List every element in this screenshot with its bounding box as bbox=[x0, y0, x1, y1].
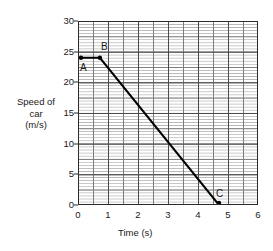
y-tick-label-10: 10 bbox=[52, 139, 74, 149]
y-tick-label-30: 30 bbox=[52, 16, 74, 26]
y-tick-mark bbox=[74, 51, 78, 52]
x-axis-title: Time (s) bbox=[118, 228, 218, 238]
y-tick-mark bbox=[74, 143, 78, 144]
y-axis-title-line-2: car bbox=[8, 108, 64, 120]
point-label-b: B bbox=[101, 42, 108, 52]
x-tick-label-0: 0 bbox=[68, 210, 88, 220]
x-tick-label-5: 5 bbox=[218, 210, 238, 220]
x-axis-tick-labels: 0 1 2 3 4 5 6 bbox=[78, 210, 258, 222]
y-tick-mark bbox=[74, 205, 78, 206]
x-tick-label-2: 2 bbox=[128, 210, 148, 220]
point-label-c: C bbox=[216, 189, 223, 199]
x-tick-label-1: 1 bbox=[98, 210, 118, 220]
point-a-marker bbox=[79, 56, 83, 60]
y-tick-label-5: 5 bbox=[52, 170, 74, 180]
data-polyline bbox=[81, 58, 219, 205]
x-tick-label-4: 4 bbox=[188, 210, 208, 220]
x-tick-label-6: 6 bbox=[248, 210, 268, 220]
x-tick-label-3: 3 bbox=[158, 210, 178, 220]
point-b-marker bbox=[98, 56, 102, 60]
y-tick-mark bbox=[74, 113, 78, 114]
point-c-marker bbox=[217, 201, 221, 205]
y-axis-title: Speed of car (m/s) bbox=[8, 96, 64, 131]
y-axis-title-line-3: (m/s) bbox=[8, 119, 64, 131]
y-axis-title-line-1: Speed of bbox=[8, 96, 64, 108]
y-tick-label-25: 25 bbox=[52, 47, 74, 57]
y-tick-label-0: 0 bbox=[52, 200, 74, 210]
y-tick-label-20: 20 bbox=[52, 78, 74, 88]
y-tick-mark bbox=[74, 21, 78, 22]
y-tick-mark bbox=[74, 174, 78, 175]
y-tick-mark bbox=[74, 82, 78, 83]
point-label-a: A bbox=[80, 63, 87, 73]
speed-time-graph-figure: 0 5 10 15 20 25 30 0 1 2 3 4 5 6 Speed o… bbox=[0, 0, 273, 251]
